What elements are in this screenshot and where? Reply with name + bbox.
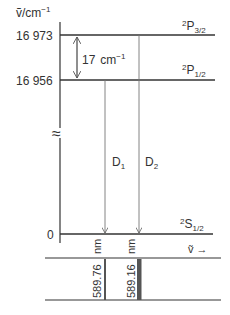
term-label-2P1/2: 2P1/2	[182, 63, 206, 79]
term-label-2P3/2: 2P3/2	[182, 19, 206, 35]
sodium-energy-diagram: ≈ ṽ/cm−1 16 973 16 956 0 2P3/2 2P1/2 2S1…	[0, 0, 230, 315]
spectral-line-D1	[104, 259, 106, 300]
transition-D2-label: D2	[145, 155, 159, 171]
splitting-label: 17cm−1	[82, 52, 126, 67]
tick-label-0: 0	[47, 228, 54, 242]
tick-label-16973: 16 973	[16, 29, 53, 43]
wavelength-D2-unit: nm	[125, 239, 137, 254]
spectral-line-D2	[137, 259, 142, 300]
wavelength-D1-value: 589.76	[91, 264, 103, 298]
wavelength-D2-value: 589.16	[125, 264, 137, 298]
wavelength-D1-unit: nm	[91, 239, 103, 254]
tick-label-16956: 16 956	[16, 74, 53, 88]
transition-D1-label: D1	[112, 155, 126, 171]
axis-break-icon: ≈	[52, 125, 61, 142]
y-axis-label: ṽ/cm−1	[16, 5, 51, 20]
spectrum-axis-label: ṽ→	[188, 243, 208, 255]
term-label-2S1/2: 2S1/2	[180, 217, 204, 233]
